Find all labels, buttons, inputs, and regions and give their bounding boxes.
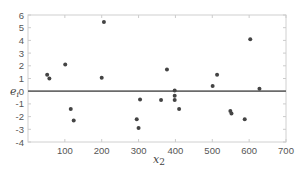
- x-tick-label: 200: [94, 145, 110, 156]
- data-point: [257, 87, 261, 91]
- plot-border: [28, 15, 286, 142]
- data-point: [243, 117, 247, 121]
- data-point: [173, 89, 177, 93]
- data-point: [100, 76, 104, 80]
- y-tick-label: 5: [19, 22, 24, 33]
- y-tick-label: -2: [16, 111, 24, 122]
- x-tick-label: 700: [278, 145, 294, 156]
- y-tick-label: 3: [19, 48, 24, 59]
- y-tick-label: 0: [19, 86, 24, 97]
- data-point: [248, 37, 252, 41]
- x-tick-label: 600: [241, 145, 257, 156]
- data-point: [69, 107, 73, 111]
- x-tick-label: 500: [204, 145, 220, 156]
- data-point: [135, 117, 139, 121]
- data-point: [137, 126, 141, 130]
- y-axis: -4-3-2-10123456: [16, 10, 286, 148]
- data-point: [138, 97, 142, 101]
- data-point: [45, 73, 49, 77]
- data-point: [72, 118, 76, 122]
- data-point: [173, 98, 177, 102]
- y-tick-label: -1: [16, 98, 24, 109]
- data-points: [45, 20, 261, 130]
- data-point: [63, 63, 67, 67]
- data-point: [165, 68, 169, 72]
- data-point: [229, 111, 233, 115]
- scatter-chart: -4-3-2-10123456 100200300400500600700 ei…: [0, 0, 300, 172]
- data-point: [177, 107, 181, 111]
- y-tick-label: -3: [16, 124, 24, 135]
- data-point: [215, 73, 219, 77]
- data-point: [159, 98, 163, 102]
- data-point: [211, 84, 215, 88]
- data-point: [173, 94, 177, 98]
- data-point: [47, 77, 51, 81]
- x-axis-label: x2: [153, 153, 165, 167]
- x-axis: 100200300400500600700: [57, 15, 294, 156]
- y-tick-label: -4: [16, 137, 24, 148]
- x-tick-label: 300: [131, 145, 147, 156]
- y-tick-label: 4: [19, 35, 24, 46]
- y-tick-label: 6: [19, 10, 24, 21]
- data-point: [102, 20, 106, 24]
- x-tick-label: 400: [167, 145, 183, 156]
- y-tick-label: 2: [19, 60, 24, 71]
- plot-frame: [28, 15, 286, 142]
- x-tick-label: 100: [57, 145, 73, 156]
- y-tick-label: 1: [19, 73, 24, 84]
